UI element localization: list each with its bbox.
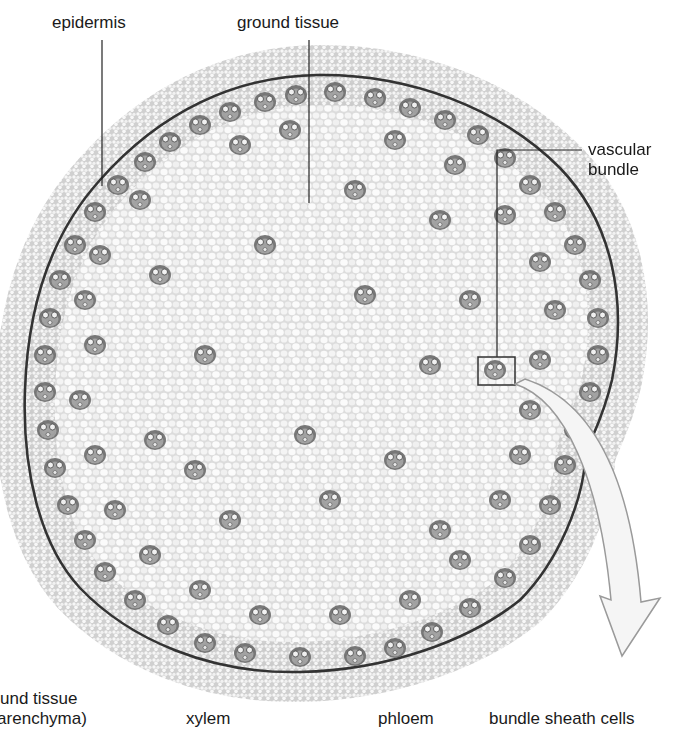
ground-tissue-label: ground tissue xyxy=(237,13,339,33)
bundle-sheath-cells-label: bundle sheath cells xyxy=(489,709,635,729)
ground-tissue-parenchyma-label-line1: und tissue xyxy=(0,689,78,709)
phloem-label: phloem xyxy=(378,709,434,729)
vascular-bundle-label-line1: vascular xyxy=(588,140,651,160)
ground-tissue-parenchyma-label-line2: (parenchyma) xyxy=(0,709,87,729)
xylem-label: xylem xyxy=(186,709,230,729)
epidermis-label: epidermis xyxy=(52,13,126,33)
vascular-bundle-label-line2: bundle xyxy=(588,160,639,180)
stem-section xyxy=(25,75,618,672)
